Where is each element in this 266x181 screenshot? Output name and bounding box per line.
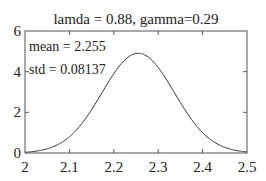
x-tick-label: 2.4	[193, 159, 212, 175]
y-tick-label: 6	[14, 23, 22, 39]
x-axis-tick-labels: 22.12.22.32.42.5	[21, 159, 256, 175]
y-tick-label: 2	[14, 104, 22, 120]
x-tick-label: 2.1	[60, 159, 79, 175]
chart: lamda = 0.88, gamma=0.29 22.12.22.32.42.…	[0, 0, 266, 181]
x-tick-label: 2.3	[149, 159, 168, 175]
chart-title: lamda = 0.88, gamma=0.29	[53, 11, 218, 27]
y-tick-label: 0	[14, 145, 22, 161]
mean-annotation: mean = 2.255	[29, 39, 106, 54]
x-tick-label: 2.5	[238, 159, 257, 175]
std-annotation: std = 0.08137	[29, 62, 106, 77]
x-tick-label: 2.2	[104, 159, 123, 175]
y-axis-tick-labels: 0246	[14, 23, 22, 161]
x-tick-label: 2	[21, 159, 29, 175]
y-tick-label: 4	[14, 64, 22, 80]
